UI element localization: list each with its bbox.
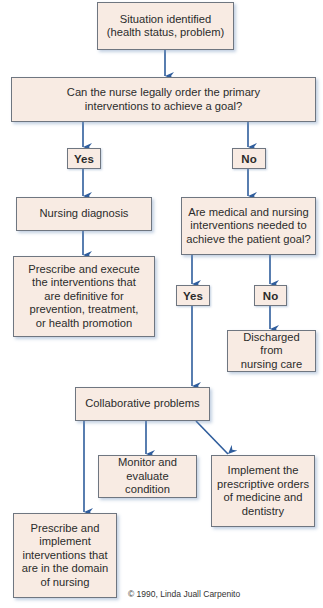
node-collaborative-problems: Collaborative problems <box>75 387 210 421</box>
node-question-legally-order: Can the nurse legally order the primary … <box>11 77 316 122</box>
label-no-2: No <box>254 285 287 306</box>
node-implement-orders: Implement the prescriptive orders of med… <box>211 455 315 527</box>
node-situation-identified: Situation identified (health status, pro… <box>97 2 234 50</box>
label-no-1: No <box>232 148 266 169</box>
node-prescribe-execute: Prescribe and execute the interventions … <box>13 256 155 337</box>
node-prescribe-implement: Prescribe and implement interventions th… <box>13 513 117 598</box>
node-discharged: Discharged from nursing care <box>227 330 316 372</box>
node-monitor-evaluate: Monitor and evaluate condition <box>98 455 197 498</box>
node-nursing-diagnosis: Nursing diagnosis <box>16 197 152 231</box>
node-question-medical-nursing: Are medical and nursing interventions ne… <box>181 197 316 255</box>
copyright-notice: © 1990, Linda Juall Carpenito <box>128 589 238 599</box>
label-yes-2: Yes <box>176 285 210 306</box>
label-yes-1: Yes <box>67 148 101 169</box>
